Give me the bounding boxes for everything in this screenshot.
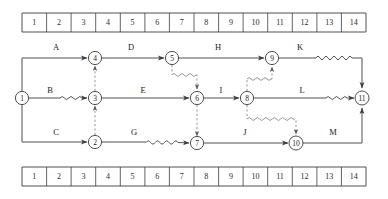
activity-arrow-L	[254, 97, 354, 100]
ruler-bottom-tick-2: 2	[51, 173, 67, 181]
activity-arrow-G	[102, 141, 189, 144]
activity-label-H: H	[208, 43, 228, 52]
activity-label-I: I	[211, 86, 231, 95]
activity-label-D: D	[121, 43, 141, 52]
ruler-bottom-tick-13: 13	[321, 173, 337, 181]
ruler-top-tick-7: 7	[174, 19, 190, 27]
ruler-bottom-tick-8: 8	[198, 173, 214, 181]
ruler-bottom-tick-12: 12	[297, 173, 313, 181]
ruler-bottom-tick-9: 9	[223, 173, 239, 181]
activity-label-C: C	[46, 128, 66, 137]
activity-label-A: A	[46, 43, 66, 52]
ruler-top-tick-3: 3	[75, 19, 91, 27]
ruler-bottom-tick-5: 5	[125, 173, 141, 181]
time-scale-ruler-top	[22, 13, 366, 32]
ruler-bottom-tick-14: 14	[346, 173, 362, 181]
node-label-3: 3	[85, 95, 105, 103]
ruler-bottom-tick-11: 11	[272, 173, 288, 181]
ruler-bottom-tick-1: 1	[26, 173, 42, 181]
node-label-9: 9	[262, 55, 282, 63]
ruler-top-tick-2: 2	[51, 19, 67, 27]
ruler-top-tick-1: 1	[26, 19, 42, 27]
ruler-top-tick-9: 9	[223, 19, 239, 27]
node-label-2: 2	[85, 139, 105, 147]
dummy-arrow-8-to-9	[247, 67, 272, 91]
node-label-5: 5	[162, 55, 182, 63]
node-label-7: 7	[187, 140, 207, 148]
activity-label-M: M	[323, 128, 343, 137]
activity-arrow-K	[279, 56, 362, 88]
ruler-top-tick-4: 4	[100, 19, 116, 27]
ruler-bottom-tick-10: 10	[247, 173, 263, 181]
ruler-top-tick-6: 6	[149, 19, 165, 27]
ruler-bottom-tick-6: 6	[149, 173, 165, 181]
ruler-bottom-tick-3: 3	[75, 173, 91, 181]
node-label-1: 1	[12, 95, 32, 103]
ruler-bottom-tick-7: 7	[174, 173, 190, 181]
activity-label-G: G	[124, 128, 144, 137]
ruler-top-tick-12: 12	[297, 19, 313, 27]
dummy-arrow-5-to-6	[172, 65, 197, 89]
network-diagram-page: 1 2 3 4 5 6 7 8 9 10 11 12 13 14 1 2 3 4…	[0, 0, 388, 199]
activity-arrow-B	[29, 97, 87, 100]
ruler-top-tick-8: 8	[198, 19, 214, 27]
activity-label-K: K	[290, 43, 310, 52]
node-label-4: 4	[85, 55, 105, 63]
activity-arrow-M	[303, 108, 362, 143]
node-label-11: 11	[352, 95, 372, 103]
node-label-10: 10	[286, 140, 306, 148]
time-scale-ruler-bottom	[22, 167, 366, 186]
activity-label-B: B	[40, 86, 60, 95]
node-label-6: 6	[187, 95, 207, 103]
ruler-bottom-tick-4: 4	[100, 173, 116, 181]
ruler-top-tick-5: 5	[125, 19, 141, 27]
activity-label-J: J	[235, 128, 255, 137]
activity-label-L: L	[292, 86, 312, 95]
ruler-top-tick-14: 14	[346, 19, 362, 27]
activity-label-E: E	[133, 86, 153, 95]
node-label-8: 8	[237, 95, 257, 103]
ruler-top-tick-11: 11	[272, 19, 288, 27]
ruler-top-tick-13: 13	[321, 19, 337, 27]
ruler-top-tick-10: 10	[247, 19, 263, 27]
